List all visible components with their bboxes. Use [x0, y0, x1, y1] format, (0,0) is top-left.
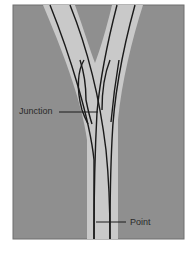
point-label: Point — [130, 217, 151, 227]
railway-switch-diagram: Junction Point — [0, 0, 195, 254]
junction-label: Junction — [19, 106, 53, 116]
diagram-canvas: Junction Point — [0, 0, 195, 254]
